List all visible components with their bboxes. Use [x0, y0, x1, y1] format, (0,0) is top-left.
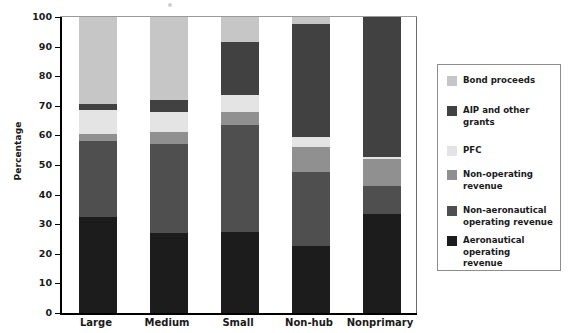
y-tick-label: 100 [18, 12, 52, 22]
stacked-bar-nonprimary [363, 17, 401, 313]
y-tick-label: 70 [18, 101, 52, 111]
y-tick-label: 80 [18, 71, 52, 81]
legend-item-label: Bond proceeds [463, 75, 535, 87]
bar-segment [292, 147, 330, 172]
y-tick-label: 30 [18, 219, 52, 229]
bar-segment [292, 172, 330, 246]
bar-segment [363, 214, 401, 313]
legend-item[interactable]: Non-operating revenue [447, 169, 533, 192]
y-tick-label: 10 [18, 278, 52, 288]
y-tick-label: 0 [18, 308, 52, 318]
legend-item[interactable]: Aeronautical operating revenue [447, 235, 525, 270]
bar-segment [79, 141, 117, 216]
bar-segment [79, 17, 117, 104]
page-artifact-dot [168, 3, 172, 7]
stacked-bar-small [221, 17, 259, 313]
bar-segment [79, 134, 117, 141]
bar-segment [221, 232, 259, 313]
y-tick-label: 90 [18, 42, 52, 52]
legend-item-label: Non-operating revenue [463, 169, 533, 192]
legend-item-label: Non-aeronautical operating revenue [463, 205, 553, 228]
bar-segment [221, 112, 259, 125]
y-tick-label: 50 [18, 160, 52, 170]
bar-segment [363, 186, 401, 214]
bar-segment [150, 100, 188, 112]
legend-item-label: AIP and other grants [463, 105, 529, 128]
bar-segment [150, 132, 188, 144]
legend-item[interactable]: PFC [447, 145, 481, 157]
y-tick-label: 40 [18, 190, 52, 200]
legend-swatch-icon [447, 170, 457, 180]
chart-legend: Bond proceedsAIP and other grantsPFCNon-… [437, 64, 561, 271]
legend-swatch-icon [447, 106, 457, 116]
legend-item[interactable]: AIP and other grants [447, 105, 529, 128]
bar-segment [221, 95, 259, 111]
bar-segment [363, 17, 401, 157]
legend-item[interactable]: Bond proceeds [447, 75, 535, 87]
plot-area [60, 17, 417, 315]
legend-swatch-icon [447, 146, 457, 156]
bar-segment [150, 144, 188, 233]
bar-segment [221, 125, 259, 232]
bar-segment [363, 157, 401, 159]
legend-item-label: PFC [463, 145, 481, 157]
bar-segment [79, 104, 117, 110]
legend-swatch-icon [447, 206, 457, 216]
legend-item-label: Aeronautical operating revenue [463, 235, 525, 270]
stacked-bar-medium [150, 17, 188, 313]
bar-segment [150, 233, 188, 313]
bar-segment [292, 246, 330, 313]
legend-swatch-icon [447, 236, 457, 246]
y-tick-label: 20 [18, 249, 52, 259]
bar-segment [292, 137, 330, 147]
bar-segment [363, 159, 401, 186]
bar-segment [292, 17, 330, 24]
y-tick-label: 60 [18, 130, 52, 140]
x-axis-label-nonprimary: Nonprimary [335, 318, 425, 328]
y-axis-title: Percentage [13, 111, 23, 191]
bar-segment [292, 24, 330, 136]
bar-segment [221, 42, 259, 95]
bar-segment [150, 17, 188, 100]
stacked-bar-chart-figure: Percentage 0102030405060708090100 LargeM… [0, 0, 570, 333]
legend-item[interactable]: Non-aeronautical operating revenue [447, 205, 553, 228]
bar-segment [221, 17, 259, 42]
stacked-bar-large [79, 17, 117, 313]
bar-segment [79, 217, 117, 313]
bar-segment [79, 110, 117, 134]
bar-segment [150, 112, 188, 133]
legend-swatch-icon [447, 76, 457, 86]
stacked-bar-non-hub [292, 17, 330, 313]
